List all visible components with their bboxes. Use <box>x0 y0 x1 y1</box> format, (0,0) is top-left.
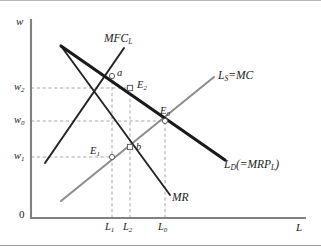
curve-label-mfc-base: MFC <box>104 32 128 44</box>
point-label-e0-sub: 0 <box>166 110 169 117</box>
point-label-b-base: b <box>136 141 141 152</box>
x-tick-l1: L1 <box>105 222 114 233</box>
y-tick-w0: w0 <box>14 115 24 126</box>
y-tick-w2-sub: 2 <box>21 86 24 93</box>
point-marker-e2 <box>127 85 132 90</box>
curve-label-ld-sub2: L <box>271 163 275 172</box>
y-tick-w0-sub: 0 <box>21 119 24 126</box>
point-label-b: b <box>136 142 141 153</box>
origin-label-text: 0 <box>19 208 25 220</box>
point-marker-e1 <box>109 154 114 159</box>
y-tick-w2: w2 <box>14 82 24 93</box>
y-tick-w1: w1 <box>14 151 24 162</box>
point-marker-e0 <box>162 118 167 123</box>
curve-label-ld-sub: D <box>230 163 235 172</box>
curves-group <box>45 46 225 201</box>
x-tick-l0: L0 <box>158 222 167 233</box>
x-tick-l0-sub: 0 <box>164 226 167 233</box>
x-tick-l1-sub: 1 <box>111 226 114 233</box>
y-tick-w1-base: w <box>14 150 21 161</box>
curve-labor-supply-ls-mc <box>61 77 214 201</box>
origin-label: 0 <box>19 209 25 220</box>
y-tick-w2-base: w <box>14 81 21 92</box>
point-label-e0: E0 <box>160 106 170 117</box>
point-label-a: a <box>117 68 122 79</box>
x-tick-l1-base: L <box>105 221 111 232</box>
y-axis-label-text: w <box>16 15 23 27</box>
y-axis-label: w <box>16 16 23 27</box>
curve-label-mr-base: MR <box>172 191 189 203</box>
curve-label-mfc-l: MFCL <box>104 33 133 45</box>
curve-label-ls-tail: =MC <box>228 69 253 81</box>
plot-canvas <box>0 0 321 246</box>
economics-diagram-figure: w L 0 w2 w0 w1 L1 L2 L0 MFCL LS=MC LD(=M… <box>0 0 321 246</box>
x-tick-l0-base: L <box>158 221 164 232</box>
curve-marginal-revenue-mr <box>61 46 170 195</box>
curve-label-mr: MR <box>172 192 189 204</box>
x-axis-label-text: L <box>296 221 302 233</box>
curve-label-mfc-sub: L <box>128 37 132 46</box>
y-tick-w0-base: w <box>14 114 21 125</box>
x-axis-label: L <box>296 222 302 233</box>
curve-label-ld-tail2: ) <box>275 158 279 170</box>
curve-label-ld-mrpl: LD(=MRPL) <box>224 159 279 171</box>
curve-label-ld-tail: (=MRP <box>236 158 271 170</box>
point-marker-b <box>127 144 132 149</box>
point-label-e1-sub: 1 <box>96 150 99 157</box>
point-label-a-base: a <box>117 67 122 78</box>
point-marker-a <box>109 73 114 78</box>
x-tick-l2: L2 <box>123 222 132 233</box>
x-tick-l2-sub: 2 <box>129 226 132 233</box>
point-label-e2: E2 <box>137 80 147 91</box>
curve-label-ls-sub: S <box>224 74 228 83</box>
point-label-e1: E1 <box>90 146 100 157</box>
curve-label-ls-mc: LS=MC <box>218 70 253 82</box>
x-tick-l2-base: L <box>123 221 129 232</box>
y-tick-w1-sub: 1 <box>21 155 24 162</box>
point-label-e2-sub: 2 <box>143 84 146 91</box>
